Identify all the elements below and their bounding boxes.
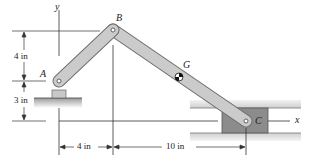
- center-of-mass-icon: [175, 73, 183, 81]
- ground-support-a: [34, 90, 82, 108]
- diagram-graphics: [0, 0, 309, 165]
- x-axis-label: x: [295, 115, 299, 125]
- point-c-label: C: [255, 116, 262, 126]
- pin-a-icon: [57, 79, 61, 83]
- linkage-diagram: y B A G C x 4 in 3 in 4 in 10 in: [0, 0, 309, 165]
- point-a-label: A: [40, 69, 46, 79]
- point-b-label: B: [116, 13, 122, 23]
- y-axis-label: y: [55, 2, 59, 12]
- link-ab: [59, 30, 113, 81]
- dim-vertical-lower: 3 in: [14, 96, 28, 105]
- point-g-label: G: [183, 60, 190, 70]
- pin-c-icon: [244, 119, 248, 123]
- pin-b-icon: [111, 28, 115, 32]
- dim-horizontal-left: 4 in: [77, 142, 91, 151]
- dim-vertical-upper: 4 in: [14, 52, 28, 61]
- dim-horizontal-right: 10 in: [166, 142, 184, 151]
